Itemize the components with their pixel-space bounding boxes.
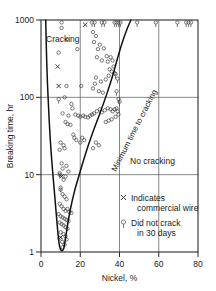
- y-tick-label-1: 1: [29, 247, 34, 257]
- x-tick-label-40: 40: [115, 259, 125, 269]
- annotation-cracking: Cracking: [46, 34, 80, 44]
- y-tick-label-1000: 1000: [15, 15, 34, 25]
- y-tickmarks: [36, 20, 41, 252]
- x-tick-label-60: 60: [154, 259, 164, 269]
- chart-svg: 1000 100 10 1 0 20 40 60 80 Nickel, % Br…: [0, 0, 216, 291]
- x-tick-label-80: 80: [193, 259, 203, 269]
- legend-label-commercial-line2: commercial wire: [137, 203, 199, 213]
- x-axis-title: Nickel, %: [102, 273, 138, 283]
- legend-label-commercial-line1: Indicates: [131, 193, 165, 203]
- y-tick-label-100: 100: [20, 92, 34, 102]
- y-axis-title: Breaking time, hr: [5, 104, 15, 168]
- legend-label-didnotcrack-line2: in 30 days: [137, 228, 176, 238]
- x-tickmarks: [41, 252, 198, 257]
- figure-container: 1000 100 10 1 0 20 40 60 80 Nickel, % Br…: [0, 0, 216, 291]
- legend-label-didnotcrack-line1: Did not crack: [131, 218, 181, 228]
- x-tick-label-20: 20: [76, 259, 86, 269]
- x-tick-label-0: 0: [39, 259, 44, 269]
- annotation-no-cracking: No cracking: [130, 156, 175, 166]
- y-tick-label-10: 10: [25, 170, 35, 180]
